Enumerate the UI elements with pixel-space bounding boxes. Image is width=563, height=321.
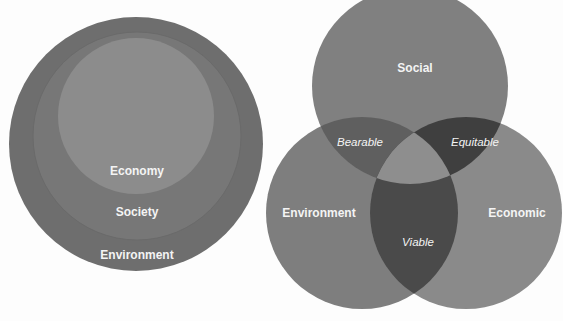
equitable-label: Equitable (451, 136, 499, 148)
diagrams-canvas: Economy Society Environment Social Envir… (0, 0, 563, 321)
economy-label: Economy (110, 164, 164, 178)
viable-label: Viable (402, 236, 434, 248)
environment-venn-label: Environment (282, 206, 355, 220)
bearable-label: Bearable (337, 136, 383, 148)
economic-label: Economic (488, 206, 546, 220)
society-label: Society (116, 205, 159, 219)
social-label: Social (397, 61, 432, 75)
nested-sustainability-diagram: Economy Society Environment (9, 17, 263, 271)
environment-label: Environment (100, 248, 173, 262)
venn-sustainability-diagram: Social Environment Economic Bearable Equ… (266, 0, 562, 309)
